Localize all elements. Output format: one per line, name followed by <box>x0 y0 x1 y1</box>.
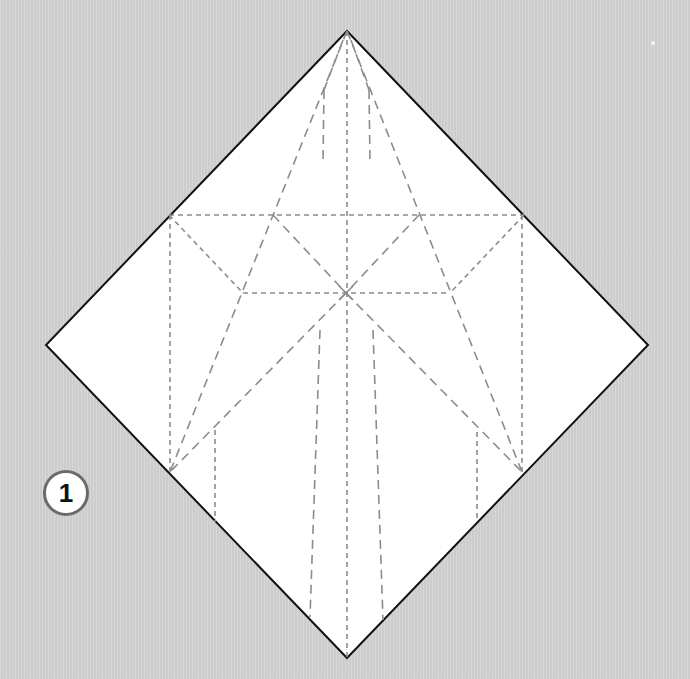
step-number-badge: 1 <box>43 470 89 516</box>
speck-mark <box>651 41 655 45</box>
step-number-label: 1 <box>59 478 73 509</box>
crease-pattern-diagram <box>0 0 690 679</box>
